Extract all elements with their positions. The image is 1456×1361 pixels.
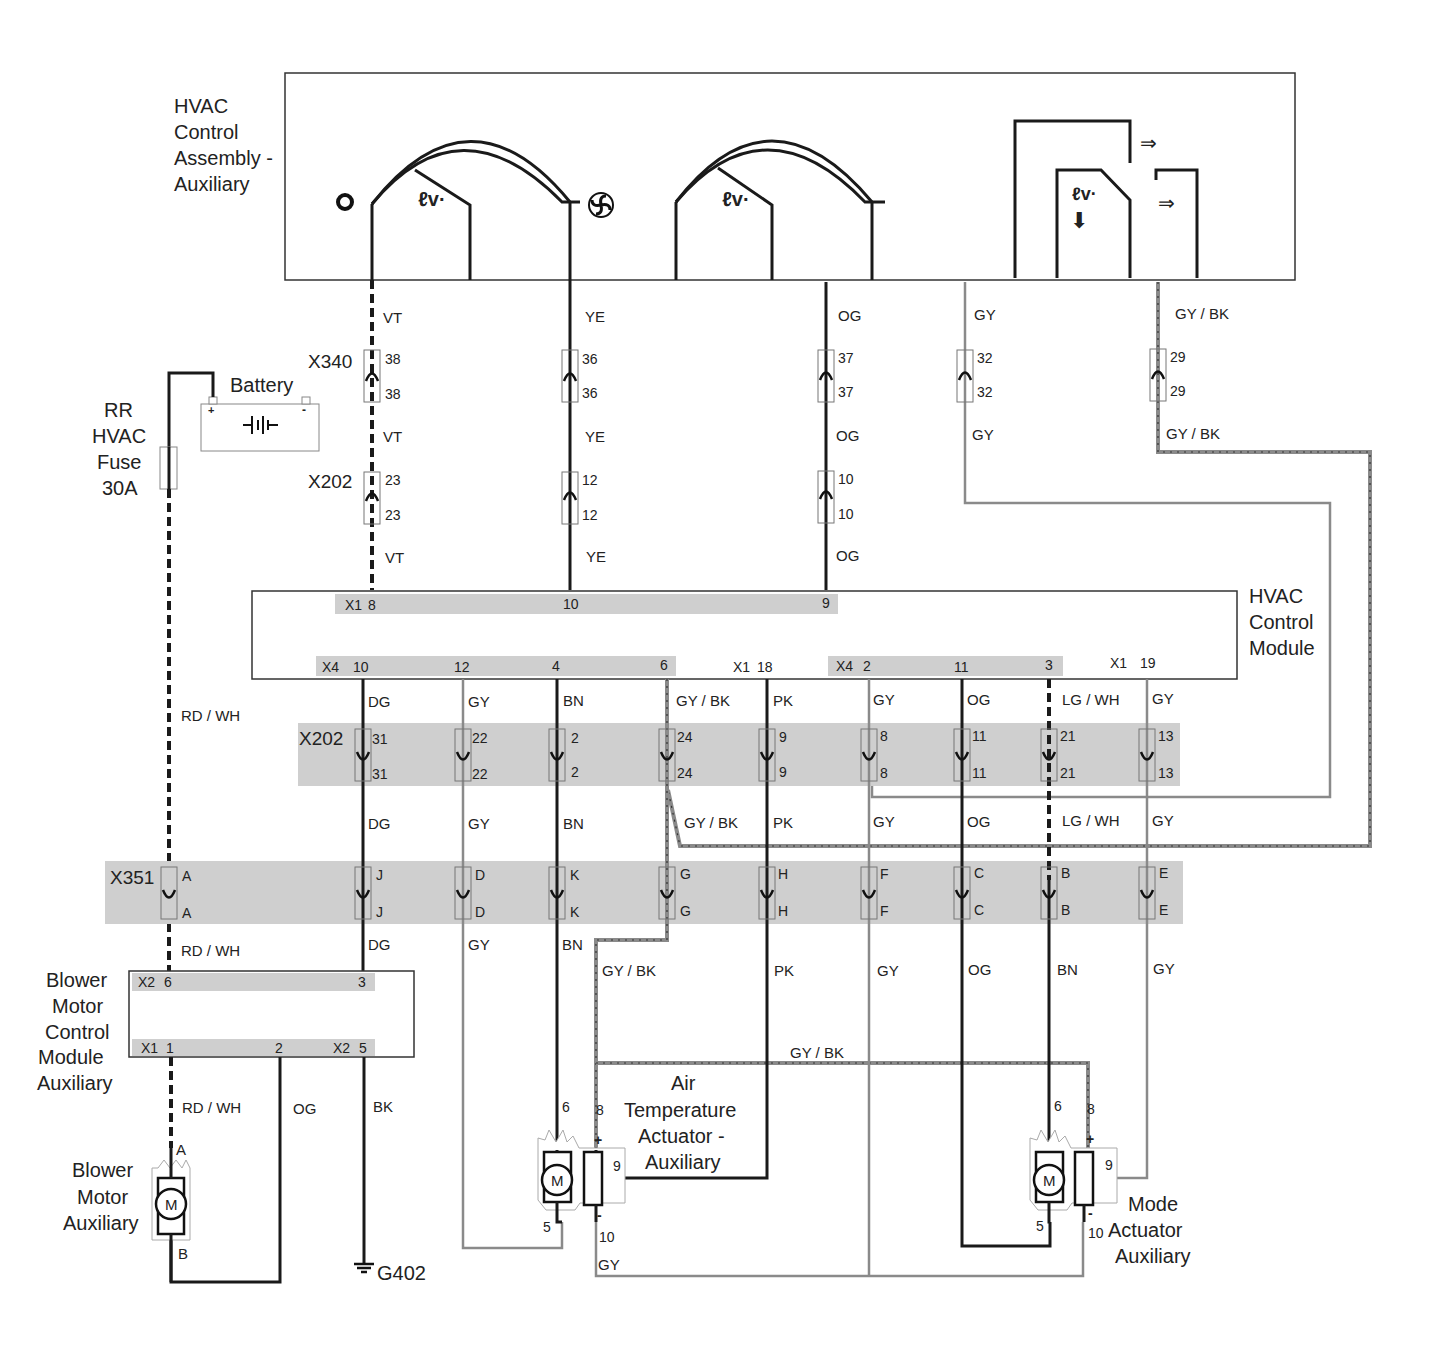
svg-text:PK: PK (774, 962, 794, 979)
fan-icon (589, 193, 613, 217)
svg-text:12: 12 (582, 472, 598, 488)
svg-text:GY: GY (468, 693, 490, 710)
fuse-rr-hvac-30a: RR HVAC Fuse 30A (92, 399, 177, 499)
svg-text:12: 12 (582, 507, 598, 523)
svg-text:A: A (182, 905, 192, 921)
svg-text:11: 11 (954, 659, 969, 675)
temperature-variable-icon: ℓv· (722, 188, 750, 210)
defrost-floor-icon: ⇒ (1140, 132, 1157, 154)
air-temp-motor-icon: M (551, 1172, 564, 1189)
svg-text:38: 38 (385, 386, 401, 402)
hvac-module-label-1: HVAC (1249, 585, 1303, 607)
svg-text:19: 19 (1140, 655, 1156, 671)
svg-text:X4: X4 (836, 658, 853, 674)
svg-text:5: 5 (543, 1219, 551, 1235)
svg-text:36: 36 (582, 351, 598, 367)
svg-text:9: 9 (1105, 1157, 1113, 1173)
motor-icon: M (165, 1196, 178, 1213)
wiring-diagram: HVAC Control Assembly - Auxiliary ℓv· ℓ (0, 0, 1456, 1361)
svg-text:2: 2 (863, 658, 871, 674)
svg-text:24: 24 (677, 729, 693, 745)
air-temp-label-4: Auxiliary (645, 1151, 721, 1173)
svg-text:2: 2 (275, 1040, 283, 1056)
mode-actuator: M 6 8 + 9 5 - 10 Mode Actuator Auxiliary (1030, 1098, 1191, 1267)
svg-text:GY / BK: GY / BK (602, 962, 656, 979)
svg-text:GY: GY (1153, 960, 1175, 977)
svg-text:A: A (182, 868, 192, 884)
svg-text:-: - (302, 403, 306, 417)
bmcm-label-4: Module (38, 1046, 104, 1068)
svg-text:6: 6 (164, 974, 172, 990)
bmcm-label-5: Auxiliary (37, 1072, 113, 1094)
svg-text:GY: GY (877, 962, 899, 979)
svg-text:10: 10 (353, 659, 369, 675)
svg-text:GY / BK: GY / BK (676, 692, 730, 709)
svg-text:GY: GY (468, 936, 490, 953)
label-gy-1: GY (974, 306, 996, 323)
fuse-label-4: 30A (102, 477, 138, 499)
x202-lower-label: X202 (299, 728, 343, 749)
svg-text:BN: BN (563, 815, 584, 832)
mode-potentiometer (1075, 1152, 1093, 1205)
mode-motor-icon: M (1043, 1172, 1056, 1189)
svg-text:GY: GY (598, 1256, 620, 1273)
svg-text:X1: X1 (1110, 655, 1127, 671)
bmcm-label-2: Motor (52, 995, 103, 1017)
svg-text:RD / WH: RD / WH (182, 1099, 241, 1116)
svg-text:G: G (680, 866, 691, 882)
hvac-assembly-label-1: HVAC (174, 95, 228, 117)
wiper-variable-icon: ℓv· (418, 188, 446, 210)
connector-x202-upper: X202 23 23 12 12 10 10 (308, 471, 854, 524)
battery-label: Battery (230, 374, 293, 396)
svg-text:1: 1 (166, 1040, 174, 1056)
blower-motor-label-3: Auxiliary (63, 1212, 139, 1234)
bmcm-label-3: Control (45, 1021, 109, 1043)
svg-text:F: F (880, 903, 889, 919)
svg-text:+: + (594, 1132, 602, 1148)
svg-text:10: 10 (1088, 1225, 1104, 1241)
svg-text:21: 21 (1060, 728, 1076, 744)
svg-text:10: 10 (563, 596, 579, 612)
svg-text:8: 8 (1087, 1101, 1095, 1117)
mode-label-1: Mode (1128, 1193, 1178, 1215)
hvac-assembly-label-4: Auxiliary (174, 173, 250, 195)
svg-text:10: 10 (599, 1229, 615, 1245)
svg-text:X1: X1 (345, 597, 362, 613)
svg-text:OG: OG (293, 1100, 316, 1117)
svg-text:9: 9 (613, 1158, 621, 1174)
label-vt-3: VT (385, 549, 404, 566)
svg-text:X4: X4 (322, 659, 339, 675)
blower-motor-label-1: Blower (72, 1159, 133, 1181)
svg-text:5: 5 (359, 1040, 367, 1056)
svg-text:31: 31 (372, 766, 388, 782)
bmcm-label-1: Blower (46, 969, 107, 991)
svg-text:12: 12 (454, 659, 470, 675)
blower-motor-label-2: Motor (77, 1186, 128, 1208)
svg-text:LG / WH: LG / WH (1062, 812, 1120, 829)
wire-gy-32 (872, 282, 1330, 797)
svg-text:OG: OG (967, 691, 990, 708)
label-ye-3: YE (586, 548, 606, 565)
svg-text:E: E (1159, 865, 1168, 881)
svg-text:DG: DG (368, 693, 391, 710)
svg-text:22: 22 (472, 766, 488, 782)
blower-motor-control-module: X2 6 3 X1 1 2 X2 5 Blower Motor Control … (37, 969, 414, 1094)
svg-text:OG: OG (967, 813, 990, 830)
label-vt-1: VT (383, 309, 402, 326)
air-temperature-actuator: M 6 8 + 9 5 - 10 Air Temperature Actuato… (538, 1072, 736, 1245)
svg-text:38: 38 (385, 351, 401, 367)
svg-text:9: 9 (822, 595, 830, 611)
label-og-2: OG (836, 427, 859, 444)
floor-mode-icon: ⬇ (1070, 208, 1088, 233)
hvac-module-label-3: Module (1249, 637, 1315, 659)
svg-text:13: 13 (1158, 728, 1174, 744)
svg-text:GY: GY (1152, 690, 1174, 707)
air-temp-label-1: Air (671, 1072, 696, 1094)
face-mode-icon: ⇒ (1158, 192, 1175, 214)
hvac-control-assembly: HVAC Control Assembly - Auxiliary ℓv· ℓ (174, 73, 1295, 280)
fuse-label-2: HVAC (92, 425, 146, 447)
svg-text:DG: DG (368, 936, 391, 953)
svg-text:23: 23 (385, 507, 401, 523)
svg-text:X1: X1 (733, 659, 750, 675)
svg-text:E: E (1159, 902, 1168, 918)
